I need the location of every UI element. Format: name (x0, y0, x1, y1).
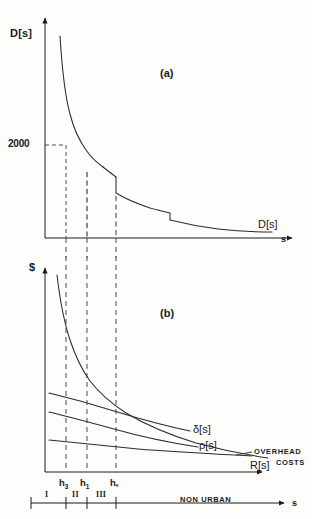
xtick-label-h3: h3 (59, 478, 68, 490)
panel-a-y-axis-label: D[s] (10, 28, 32, 39)
region-label-1: I (45, 491, 48, 499)
xtick-label-h1: h1 (80, 478, 89, 490)
xtick-label-hstar: h* (110, 478, 118, 490)
region-label-nonurban: NON URBAN (180, 496, 231, 504)
panel-b-x-axis-label: s (292, 499, 297, 508)
curve-delta (49, 393, 190, 431)
demand-curve-seg-b (116, 193, 170, 213)
panel-b-y-axis-label: $ (29, 262, 35, 273)
curve-rent-R (57, 275, 268, 458)
panel-a-x-axis-label: s (281, 235, 286, 244)
panel-a-ytick-2000: 2000 (8, 139, 29, 149)
xtick-h1-sub: 1 (86, 483, 90, 490)
region-label-2: II (72, 491, 79, 499)
panel-a-curve-label: D[s] (258, 219, 278, 230)
overhead-label-line2: COSTS (276, 459, 305, 467)
demand-curve-seg-a2 (103, 167, 116, 177)
panel-a-tag: (a) (160, 68, 173, 79)
panel-a (45, 0, 292, 238)
curve-overhead (49, 440, 252, 456)
curve-label-delta: δ[s] (193, 424, 211, 435)
demand-curve-seg-c (170, 220, 272, 232)
overhead-label-line1: OVERHEAD (254, 448, 301, 456)
panel-b-tag: (b) (160, 308, 174, 319)
xtick-hstar-sub: * (116, 483, 119, 490)
region-label-3: III (96, 491, 106, 499)
panel-b (31, 238, 284, 509)
curve-label-rho: ρ[s] (199, 440, 217, 451)
demand-curve-segment-1 (60, 0, 97, 160)
figure-container: D[s] (a) 2000 D[s] s $ (b) δ[s] ρ[s] R[s… (0, 0, 312, 519)
figure-canvas (0, 0, 312, 519)
curve-label-rent: R[s] (250, 460, 270, 471)
region-strip (31, 497, 284, 509)
xtick-h3-sub: 3 (65, 483, 69, 490)
